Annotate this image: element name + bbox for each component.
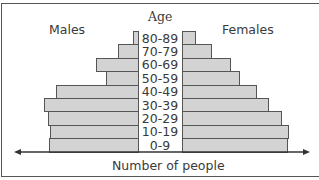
x-axis-arrow <box>0 0 319 180</box>
x-axis-label: Number of people <box>112 160 225 173</box>
